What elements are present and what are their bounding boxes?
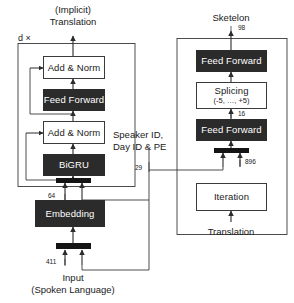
left-concat-bar	[56, 178, 91, 183]
block-add-norm-upper[interactable]: Add & Norm	[43, 56, 105, 79]
block-feed-forward-lower-right[interactable]: Feed Forward	[196, 119, 267, 141]
condition-to-input-bar	[82, 265, 149, 270]
left-output-caption: (Implicit) Translation	[50, 4, 97, 28]
dim-splicing-out: 16	[238, 110, 245, 117]
block-iteration-label: Iteration	[214, 192, 249, 202]
block-bigru[interactable]: BiGRU	[43, 154, 105, 176]
dim-side-condition: 29	[135, 164, 142, 171]
block-feed-forward-top-right[interactable]: Feed Forward	[196, 50, 267, 72]
block-feed-forward-left-label: Feed Forward	[44, 95, 104, 105]
condition-to-right-bar	[149, 167, 223, 170]
block-feed-forward-lower-right-label: Feed Forward	[201, 125, 261, 135]
block-bigru-label: BiGRU	[59, 160, 89, 170]
block-splicing-sublabel: (-5, …, +5)	[213, 97, 249, 105]
right-concat-bar	[214, 148, 249, 153]
dim-iteration-out: 896	[245, 158, 256, 165]
architecture-diagram: (Implicit) Translation d × Add & Norm Fe…	[0, 0, 294, 303]
dim-embedding-out: 64	[48, 192, 55, 199]
dim-right-output: 98	[238, 24, 245, 31]
left-input-caption-line1: Input	[31, 272, 114, 284]
left-output-caption-line1: (Implicit)	[50, 4, 97, 16]
dim-input: 411	[46, 258, 56, 265]
block-add-norm-lower-label: Add & Norm	[48, 128, 101, 138]
side-condition-line2: Day ID & PE	[113, 141, 166, 153]
side-condition-caption: Speaker ID, Day ID & PE	[113, 129, 166, 153]
side-condition-line1: Speaker ID,	[113, 129, 166, 141]
block-add-norm-upper-label: Add & Norm	[48, 63, 101, 73]
block-add-norm-lower[interactable]: Add & Norm	[43, 121, 105, 144]
block-splicing-label: Splicing	[214, 86, 248, 96]
block-splicing[interactable]: Splicing (-5, …, +5)	[196, 82, 267, 109]
repeat-caption: d ×	[18, 33, 31, 43]
block-iteration[interactable]: Iteration	[196, 183, 267, 211]
left-input-bar	[56, 243, 91, 249]
right-input-caption: Translation	[208, 226, 255, 238]
right-output-caption: Sketelon	[213, 12, 250, 24]
left-output-caption-line2: Translation	[50, 16, 97, 28]
left-input-caption-line2: (Spoken Language)	[31, 284, 114, 296]
block-embedding[interactable]: Embedding	[35, 200, 105, 227]
block-embedding-label: Embedding	[46, 209, 95, 219]
left-input-caption: Input (Spoken Language)	[31, 272, 114, 296]
block-feed-forward-top-right-label: Feed Forward	[201, 56, 261, 66]
block-feed-forward-left[interactable]: Feed Forward	[43, 89, 105, 111]
